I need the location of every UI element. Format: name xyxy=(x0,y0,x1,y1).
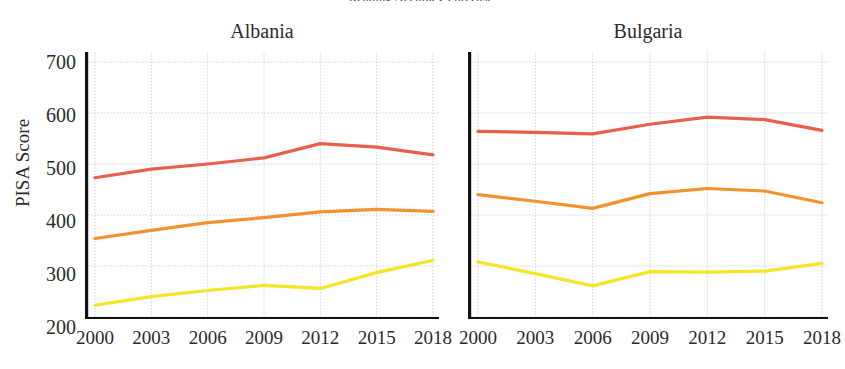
y-tick-label: 400 xyxy=(20,211,76,231)
y-tick-label: 700 xyxy=(20,52,76,72)
x-tick-label: 2006 xyxy=(565,327,621,349)
x-axis-tick-labels: 2000200320062009201220152018 xyxy=(468,323,828,357)
panel-bulgaria: Bulgaria 2000200320062009201220152018 xyxy=(468,52,828,319)
y-axis-tick-labels: 700 600 500 400 300 200 xyxy=(12,0,76,369)
x-tick-label: 2012 xyxy=(292,327,348,349)
plot-area xyxy=(85,52,439,319)
x-tick-label: 2009 xyxy=(622,327,678,349)
panel-albania: Albania 2000200320062009201220152018 xyxy=(85,52,439,319)
x-tick-label: 2000 xyxy=(67,327,123,349)
plot-svg-bulgaria xyxy=(468,52,828,319)
x-tick-label: 2012 xyxy=(679,327,735,349)
plot-svg-albania xyxy=(85,52,439,319)
panel-title: Albania xyxy=(85,20,439,43)
panel-title: Bulgaria xyxy=(468,20,828,43)
series-line-math xyxy=(478,188,822,208)
plot-area xyxy=(468,52,828,319)
x-tick-label: 2003 xyxy=(507,327,563,349)
y-tick-label: 500 xyxy=(20,158,76,178)
x-tick-label: 2018 xyxy=(794,327,845,349)
y-tick-label: 300 xyxy=(20,264,76,284)
y-tick-label: 600 xyxy=(20,105,76,125)
x-tick-label: 2015 xyxy=(349,327,405,349)
series-line-math xyxy=(95,209,433,238)
x-tick-label: 2000 xyxy=(450,327,506,349)
x-tick-label: 2006 xyxy=(180,327,236,349)
x-tick-label: 2015 xyxy=(737,327,793,349)
x-tick-label: 2009 xyxy=(236,327,292,349)
figure-suptitle: Reading Accuracy Forecast xyxy=(0,0,840,1)
x-axis-tick-labels: 2000200320062009201220152018 xyxy=(85,323,439,357)
x-tick-label: 2003 xyxy=(123,327,179,349)
